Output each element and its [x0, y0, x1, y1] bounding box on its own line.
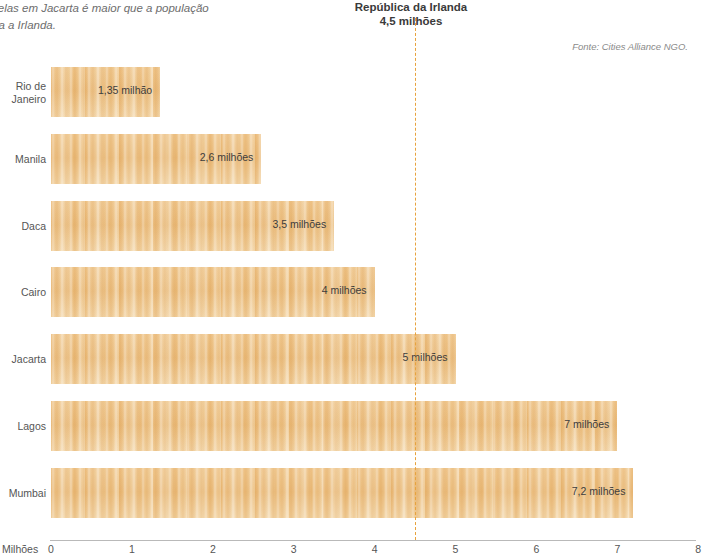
x-axis-tick-label: 1 [122, 543, 142, 555]
bar-value-label: 1,35 milhão [98, 84, 152, 96]
bar-category-label-line: Lagos [17, 420, 46, 432]
bar-category-label: Daca [0, 220, 46, 233]
x-axis-unit-label: Milhões [2, 543, 38, 555]
bar-category-label-line: Janeiro [12, 93, 46, 105]
bar-category-label: Cairo [0, 286, 46, 299]
x-axis-tick-label: 2 [203, 543, 223, 555]
x-axis-tick-label: 7 [607, 543, 627, 555]
bar-value-label: 3,5 milhões [272, 218, 326, 230]
bar-category-label-line: Manila [15, 153, 46, 165]
bar-value-label: 2,6 milhões [200, 151, 254, 163]
bar-value-label: 5 milhões [403, 351, 448, 363]
x-axis-tick-label: 3 [284, 543, 304, 555]
bar-category-label-line: Rio de [16, 80, 46, 92]
x-axis-tick-label: 6 [526, 543, 546, 555]
bar-category-label-line: Jacarta [12, 353, 46, 365]
x-axis-tick-label: 5 [446, 543, 466, 555]
bar-value-label: 4 milhões [322, 284, 367, 296]
bar-category-label: Manila [0, 153, 46, 166]
bar-category-label: Jacarta [0, 353, 46, 366]
bar[interactable] [51, 334, 456, 384]
bar-category-label-line: Daca [21, 220, 46, 232]
x-axis-tick-label: 0 [41, 543, 61, 555]
bar-value-label: 7 milhões [564, 418, 609, 430]
bar[interactable] [51, 401, 617, 451]
reference-vline [415, 18, 416, 540]
bar-category-label-line: Mumbai [9, 487, 46, 499]
bar-category-label: Mumbai [0, 487, 46, 500]
bar-category-label: Lagos [0, 420, 46, 433]
x-axis-tick-label: 4 [365, 543, 385, 555]
x-axis-tick-label: 8 [688, 543, 706, 555]
x-axis-line [50, 540, 696, 541]
bar-category-label: Rio deJaneiro [0, 80, 46, 105]
bar-value-label: 7,2 milhões [572, 485, 626, 497]
bar-category-label-line: Cairo [21, 286, 46, 298]
bar[interactable] [51, 468, 633, 518]
